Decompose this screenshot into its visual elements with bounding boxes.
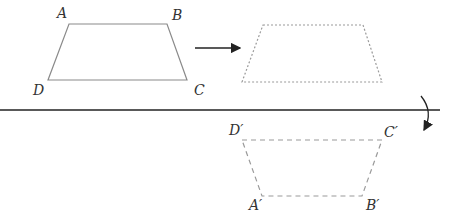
label-b-prime: B′	[365, 197, 380, 213]
label-c: C	[194, 82, 205, 98]
label-c-prime: C′	[384, 124, 399, 140]
label-a-prime: A′	[247, 197, 263, 213]
label-d: D	[32, 82, 44, 98]
translated-trapezoid	[242, 25, 382, 82]
transformation-diagram: A B C D D′ C′ A′ B′	[0, 0, 449, 222]
label-d-prime: D′	[228, 122, 244, 138]
trapezoid-abcd	[48, 24, 187, 80]
reflected-trapezoid	[242, 140, 382, 196]
label-b: B	[171, 7, 182, 23]
flip-arrow-icon	[421, 96, 428, 130]
label-a: A	[55, 5, 67, 21]
